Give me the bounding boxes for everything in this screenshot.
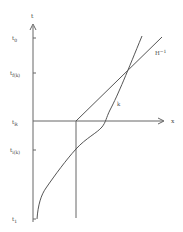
x-axis-label: x (171, 117, 175, 124)
diagram-svg: t x t0 tf(k) tR ti(k) t1 H−1 k (0, 0, 183, 232)
label-tR: tR (12, 119, 18, 127)
diagram: t x t0 tf(k) tR ti(k) t1 H−1 k (0, 0, 183, 232)
label-t1: t1 (12, 216, 17, 224)
h-inverse-label: H−1 (155, 49, 167, 56)
t-axis-label: t (31, 12, 34, 19)
k-curve (37, 36, 142, 219)
h-inverse-line (76, 37, 162, 121)
k-label: k (117, 101, 121, 107)
label-tf: tf(k) (10, 70, 20, 78)
label-ti: ti(k) (10, 147, 20, 155)
label-t0: t0 (12, 35, 17, 43)
